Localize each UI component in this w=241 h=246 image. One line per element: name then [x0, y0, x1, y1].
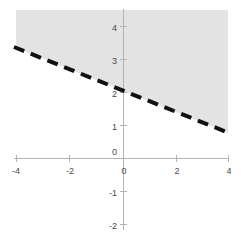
- y-tick-label--1: -1: [109, 189, 117, 198]
- x-tick-label-4: 4: [226, 167, 231, 176]
- x-tick-label--2: -2: [66, 167, 74, 176]
- y-tick-label-3: 3: [112, 57, 117, 66]
- y-tick-label-2: 2: [112, 90, 117, 99]
- x-tick-label-2: 2: [174, 167, 179, 176]
- chart-canvas: [0, 0, 241, 246]
- x-tick-label--4: -4: [12, 167, 20, 176]
- y-tick-label-0: 0: [112, 148, 117, 157]
- y-tick-label-1: 1: [112, 123, 117, 132]
- y-tick-label--2: -2: [109, 222, 117, 231]
- y-tick-label-4: 4: [112, 24, 117, 33]
- plot-area: -4 -2 0 2 4 4 3 2 1 0 -1 -2: [0, 0, 241, 246]
- x-tick-label-0: 0: [121, 167, 126, 176]
- solution-region-fill: [16, 10, 228, 133]
